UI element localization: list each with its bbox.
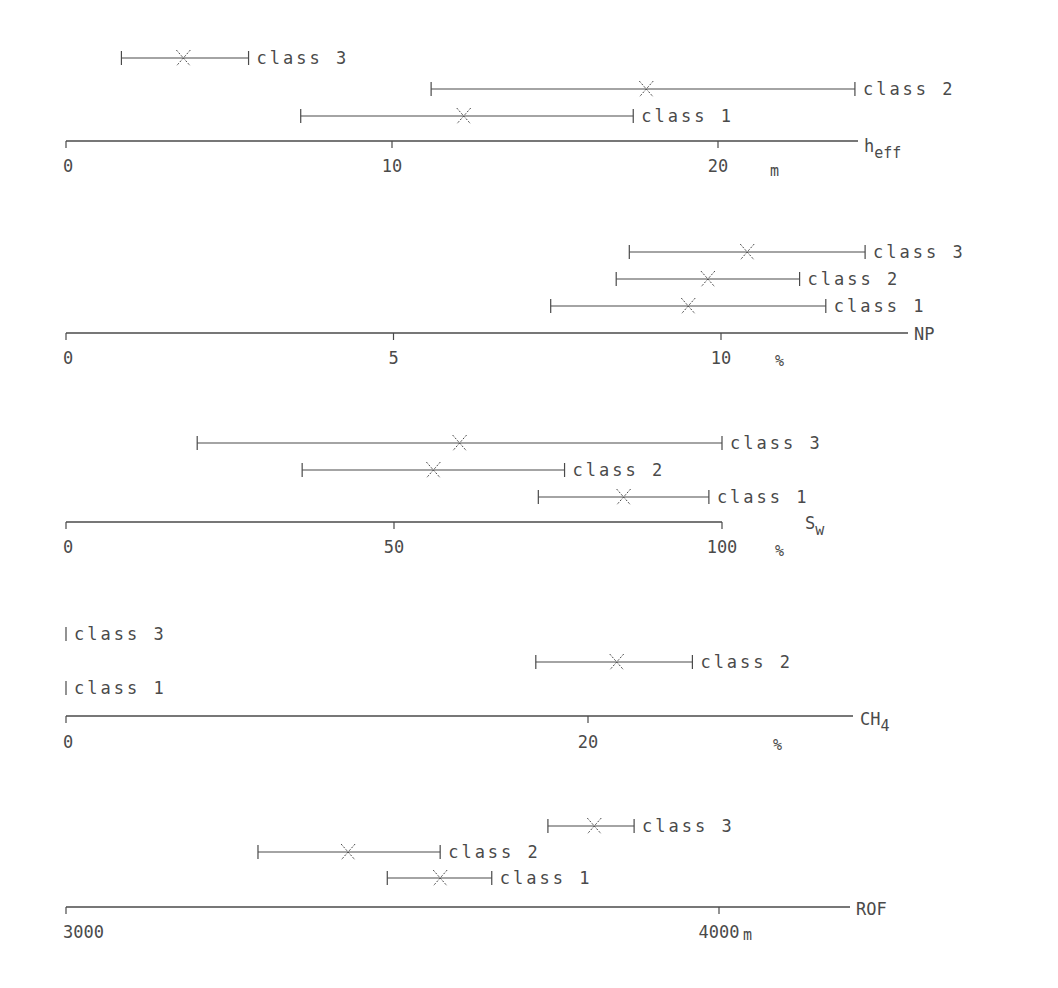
axis-variable-label: NP — [914, 324, 934, 344]
tick-label: 0 — [63, 537, 73, 557]
panel-np: 0510%NPclass 3class 2class 1 — [63, 242, 966, 370]
tick-label: 3000 — [63, 922, 104, 942]
panel-rof: 30004000mROFclass 3class 2class 1 — [63, 816, 887, 944]
panel-heff: 01020mheffclass 3class 2class 1 — [63, 48, 956, 180]
range-chart: 01020mheffclass 3class 2class 10510%NPcl… — [0, 0, 1058, 988]
series-label: class 1 — [74, 678, 167, 698]
series-label: class 1 — [717, 487, 810, 507]
unit-label: m — [743, 926, 752, 944]
range-class-3: class 3 — [629, 242, 965, 262]
axis-variable-label: ROF — [856, 899, 887, 919]
series-label: class 3 — [873, 242, 966, 262]
tick-label: 20 — [578, 732, 598, 752]
range-class-2: class 2 — [536, 652, 793, 672]
series-label: class 2 — [863, 79, 956, 99]
axis-variable-label: CH4 — [860, 709, 890, 735]
range-class-3: class 3 — [548, 816, 735, 836]
series-label: class 3 — [730, 433, 823, 453]
tick-label: 0 — [63, 732, 73, 752]
unit-label: % — [773, 736, 782, 754]
series-label: class 2 — [573, 460, 666, 480]
range-class-3: class 3 — [66, 624, 167, 644]
series-label: class 3 — [642, 816, 735, 836]
tick-label: 50 — [384, 537, 404, 557]
panel-sw: 050100%Swclass 3class 2class 1 — [63, 433, 825, 560]
series-label: class 3 — [257, 48, 350, 68]
tick-label: 4000 — [699, 922, 740, 942]
axis-variable-label: Sw — [805, 513, 825, 539]
tick-label: 20 — [708, 156, 728, 176]
tick-label: 10 — [382, 156, 402, 176]
series-label: class 1 — [834, 296, 927, 316]
range-class-1: class 1 — [387, 868, 592, 888]
tick-label: 10 — [711, 348, 731, 368]
tick-label: 5 — [388, 348, 398, 368]
range-class-1: class 1 — [301, 106, 734, 126]
unit-label: % — [775, 352, 784, 370]
range-class-2: class 2 — [431, 79, 955, 99]
series-label: class 3 — [74, 624, 167, 644]
tick-label: 0 — [63, 156, 73, 176]
series-label: class 2 — [808, 269, 901, 289]
series-label: class 2 — [700, 652, 793, 672]
range-class-1: class 1 — [538, 487, 809, 507]
range-class-1: class 1 — [66, 678, 167, 698]
unit-label: % — [775, 542, 784, 560]
tick-label: 100 — [707, 537, 738, 557]
range-class-3: class 3 — [121, 48, 349, 68]
range-class-2: class 2 — [302, 460, 665, 480]
range-class-2: class 2 — [616, 269, 900, 289]
series-label: class 2 — [448, 842, 541, 862]
unit-label: m — [770, 162, 779, 180]
series-label: class 1 — [641, 106, 734, 126]
axis-variable-label: heff — [864, 136, 901, 162]
range-class-1: class 1 — [551, 296, 927, 316]
panel-ch4: 020%CH4class 3class 2class 1 — [63, 624, 890, 754]
range-class-3: class 3 — [197, 433, 822, 453]
range-class-2: class 2 — [258, 842, 541, 862]
series-label: class 1 — [500, 868, 593, 888]
tick-label: 0 — [63, 348, 73, 368]
